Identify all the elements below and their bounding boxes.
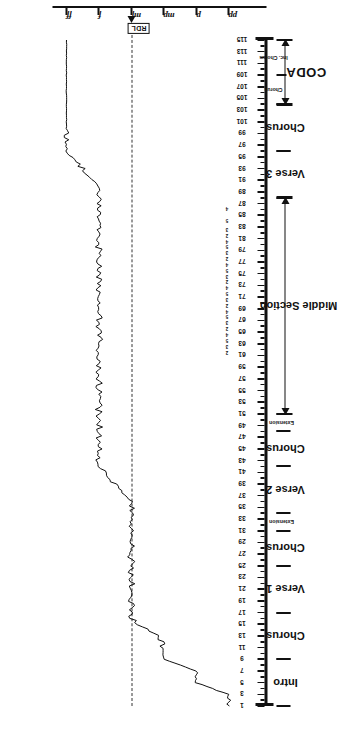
bar-tick-minor-104 — [261, 103, 265, 105]
bar-number-25: 25 — [234, 562, 251, 569]
bar-tick-minor-30 — [261, 536, 265, 538]
bar-number-97: 97 — [234, 141, 251, 148]
beat-numeral-3-2: 2 — [223, 279, 232, 284]
bar-tick-105 — [258, 98, 265, 100]
bar-tick-minor-42 — [261, 466, 265, 468]
section-divider-7-0 — [277, 430, 287, 432]
dynamics-label-ff: ff — [67, 11, 72, 21]
bar-tick-minor-34 — [261, 512, 265, 514]
bar-tick-83 — [258, 226, 265, 228]
beat-numeral-3-0: 5 — [223, 291, 232, 296]
section-label-chorus: Chorus — [246, 122, 326, 134]
bar-tick-minor-114 — [261, 45, 265, 47]
beat-numeral-5-3: 3 — [223, 227, 232, 232]
bar-tick-53 — [258, 401, 265, 403]
bar-tick-73 — [258, 285, 265, 287]
section-label-extension: Extension — [242, 519, 322, 525]
bar-tick-57 — [258, 378, 265, 380]
beat-numeral-5-0: 5 — [223, 244, 232, 249]
bar-number-43: 43 — [234, 457, 251, 464]
bar-tick-minor-80 — [261, 244, 265, 246]
bar-number-17: 17 — [234, 609, 251, 616]
bar-tick-9 — [258, 658, 265, 660]
beat-numeral-1-0: 5 — [223, 338, 232, 343]
bar-number-9: 9 — [234, 655, 251, 662]
beat-numeral-5-2: 2 — [223, 233, 232, 238]
bar-number-115: 115 — [234, 36, 251, 43]
bar-number-85: 85 — [234, 211, 251, 218]
bar-tick-103 — [258, 109, 265, 111]
beat-numeral-0-1: 3 — [223, 344, 232, 349]
bar-number-51: 51 — [234, 410, 251, 417]
bar-tick-minor-10 — [261, 653, 265, 655]
section-divider-4-0 — [277, 530, 287, 532]
bar-number-87: 87 — [234, 200, 251, 207]
bar-number-67: 67 — [234, 316, 251, 323]
coda-sub-divider-1 — [277, 74, 287, 76]
beat-numeral-1-1: 4 — [223, 332, 232, 337]
bar-tick-65 — [258, 331, 265, 333]
bar-tick-minor-8 — [261, 664, 265, 666]
bar-number-19: 19 — [234, 597, 251, 604]
dynamics-label-p: p — [196, 11, 200, 21]
section-divider-3-0 — [277, 565, 291, 567]
bar-tick-17 — [258, 612, 265, 614]
section-divider-0-0 — [277, 705, 291, 707]
dynamics-profile-figure: fffmfmpppp RDL 1357911131517192123252729… — [25, 0, 296, 740]
bar-tick-minor-90 — [261, 185, 265, 187]
beat-numeral-3-3: 3 — [223, 274, 232, 279]
bar-tick-minor-102 — [261, 115, 265, 117]
bar-tick-7 — [258, 670, 265, 672]
bar-tick-minor-36 — [261, 501, 265, 503]
bar-tick-11 — [258, 647, 265, 649]
bar-tick-minor-86 — [261, 209, 265, 211]
rdl-reference-box: RDL — [128, 23, 150, 34]
dynamics-label-mp: mp — [164, 11, 175, 21]
rdl-arrow-icon — [127, 16, 135, 23]
bar-tick-minor-16 — [261, 618, 265, 620]
beat-numeral-2-2: 2 — [223, 303, 232, 308]
bar-tick-35 — [258, 507, 265, 509]
bar-number-105: 105 — [234, 94, 251, 101]
bar-tick-minor-54 — [261, 396, 265, 398]
beat-numeral-2-0: 5 — [223, 315, 232, 320]
section-divider-1-0 — [277, 658, 291, 660]
span-label-coda: CODA — [246, 65, 342, 80]
bar-tick-115 — [258, 39, 265, 41]
beat-numeral-2-1: 4 — [223, 309, 232, 314]
bar-tick-59 — [258, 366, 265, 368]
bar-tick-minor-62 — [261, 349, 265, 351]
bar-number-47: 47 — [234, 433, 251, 440]
section-label-verse-2: Verse 2 — [246, 484, 326, 496]
bar-tick-51 — [258, 413, 265, 415]
dynamics-axis — [53, 6, 267, 9]
bar-tick-41 — [258, 472, 265, 474]
bar-tick-minor-82 — [261, 232, 265, 234]
bar-tick-minor-64 — [261, 337, 265, 339]
bar-tick-minor-18 — [261, 606, 265, 608]
bar-number-axis — [265, 40, 268, 706]
beat-numeral-4-2: 2 — [223, 256, 232, 261]
bar-tick-71 — [258, 296, 265, 298]
section-divider-6-0 — [277, 465, 291, 467]
bar-number-31: 31 — [234, 527, 251, 534]
bar-tick-77 — [258, 261, 265, 263]
bar-tick-minor-94 — [261, 162, 265, 164]
coda-sub-divider-0 — [277, 104, 287, 106]
bar-tick-minor-78 — [261, 255, 265, 257]
bar-tick-97 — [258, 144, 265, 146]
bar-tick-1 — [258, 705, 265, 707]
section-label-chorus: Chorus — [246, 630, 326, 642]
bar-tick-63 — [258, 343, 265, 345]
bar-number-61: 61 — [234, 351, 251, 358]
bar-number-113: 113 — [234, 48, 251, 55]
bar-tick-113 — [258, 51, 265, 53]
bar-number-1: 1 — [234, 702, 251, 709]
bar-tick-minor-56 — [261, 384, 265, 386]
bar-number-15: 15 — [234, 620, 251, 627]
bar-tick-minor-40 — [261, 477, 265, 479]
bar-tick-minor-98 — [261, 139, 265, 141]
section-label-chorus: Chorus — [246, 443, 326, 455]
bar-number-81: 81 — [234, 235, 251, 242]
beat-numeral-5-1: 4 — [223, 239, 232, 244]
